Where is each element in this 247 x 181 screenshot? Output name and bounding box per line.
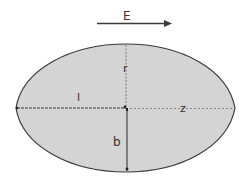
center-dot [124,106,127,109]
ellipse-diagram [0,0,247,181]
label-z: z [180,103,186,114]
bottom-vertex-dot [126,168,129,171]
field-label-e: E [123,10,131,22]
left-vertex-dot [16,107,19,110]
label-r: r [123,63,128,74]
label-b: b [113,136,121,148]
label-l: l [77,92,80,103]
field-arrow [97,20,172,27]
center-mark [126,108,128,111]
